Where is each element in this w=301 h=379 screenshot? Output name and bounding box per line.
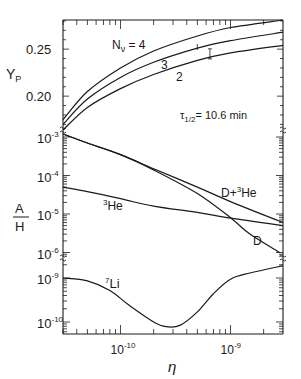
- x-tick-label: 10-9: [221, 341, 242, 357]
- curve-n-4: [63, 20, 283, 120]
- axis-labels: 10-1010-9η0.200.25YP10-310-410-510-6AH10…: [6, 42, 242, 375]
- curve-n-2: [63, 45, 283, 130]
- x-axis-label: η: [168, 358, 176, 375]
- label-he3: 3He: [103, 198, 123, 213]
- y-axis-label-a: A: [15, 201, 24, 216]
- label-nnu-3: 3: [161, 58, 168, 72]
- y-tick-label: 0.20: [26, 89, 51, 104]
- label-d: D: [253, 234, 262, 248]
- y-tick-label: 10-5: [37, 207, 59, 223]
- half-life-annotation: τ1/2= 10.6 min: [180, 109, 247, 124]
- y-tick-label: 10-6: [37, 246, 59, 262]
- error-bar-label: I: [196, 42, 199, 52]
- x-tick-label: 10-10: [111, 341, 136, 357]
- y-tick-label: 10-10: [37, 315, 64, 331]
- chart-canvas: 10-1010-9η0.200.25YP10-310-410-510-6AH10…: [0, 0, 301, 379]
- bbn-abundance-chart: 10-1010-9η0.200.25YP10-310-410-510-6AH10…: [0, 0, 301, 379]
- label-d-plus-he3: D+3He: [221, 185, 257, 200]
- y-tick-label: 0.25: [26, 42, 51, 57]
- y-axis-label-h: H: [15, 219, 24, 234]
- y-tick-label: 10-3: [37, 130, 59, 146]
- curve-n-3: [63, 32, 283, 124]
- label-nnu-4: Nν = 4: [112, 38, 146, 54]
- label-nnu-2: 2: [176, 70, 183, 84]
- curve-labels: Nν = 432Iτ1/2= 10.6 minD+3HeD3He7Li: [103, 38, 262, 291]
- y-axis-label-yp: YP: [6, 66, 21, 84]
- y-tick-label: 10-9: [37, 271, 59, 287]
- curve-7li: [63, 266, 283, 327]
- curves: [63, 20, 283, 327]
- y-tick-label: 10-4: [37, 169, 59, 185]
